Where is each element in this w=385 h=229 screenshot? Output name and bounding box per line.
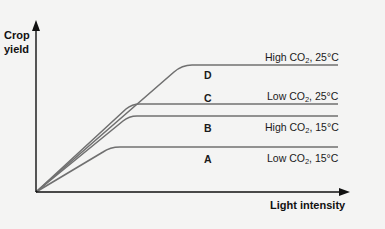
condition-label-a: Low CO2, 15°C (267, 152, 338, 166)
curve-label-c: C (204, 92, 212, 104)
condition-text: , 25°C (309, 90, 338, 102)
condition-text: , 15°C (309, 152, 338, 164)
curve-label-b: B (204, 122, 212, 134)
y-axis-label: Crop yield (4, 28, 30, 56)
condition-text: High CO (265, 121, 305, 133)
condition-label-b: High CO2, 15°C (265, 121, 339, 135)
x-axis-arrow-icon (339, 188, 350, 196)
curve-label-a: A (204, 153, 212, 165)
condition-text: , 25°C (309, 51, 338, 63)
condition-text: High CO (265, 51, 305, 63)
y-axis-label-line1: Crop (4, 28, 30, 42)
curve-label-d: D (204, 69, 212, 81)
x-axis-label: Light intensity (270, 199, 345, 211)
y-axis-label-line2: yield (4, 42, 30, 56)
condition-label-d: High CO2, 25°C (265, 51, 339, 65)
curve-c (36, 104, 338, 192)
y-axis-arrow-icon (32, 20, 40, 31)
condition-text: Low CO (267, 90, 305, 102)
condition-text: , 15°C (309, 121, 338, 133)
condition-label-c: Low CO2, 25°C (267, 90, 338, 104)
chart-canvas (0, 0, 385, 229)
condition-text: Low CO (267, 152, 305, 164)
